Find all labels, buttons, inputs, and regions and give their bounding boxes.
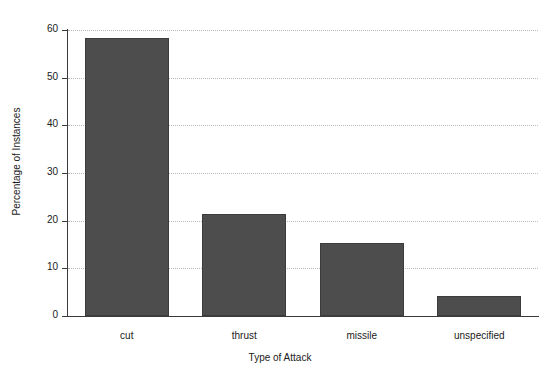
- y-tick-mark: [62, 78, 68, 79]
- y-tick-label: 10: [20, 261, 58, 272]
- y-tick-mark: [62, 173, 68, 174]
- x-axis-title: Type of Attack: [0, 352, 560, 363]
- y-tick-label: 30: [20, 166, 58, 177]
- x-tick-label: missile: [302, 330, 422, 341]
- y-tick-mark: [62, 30, 68, 31]
- bar: [85, 38, 169, 316]
- y-tick-label: 20: [20, 214, 58, 225]
- y-tick-label: 40: [20, 118, 58, 129]
- x-tick-label: cut: [67, 330, 187, 341]
- y-tick-label: 0: [20, 309, 58, 320]
- y-tick-label: 50: [20, 71, 58, 82]
- bar: [202, 214, 286, 316]
- bar: [437, 296, 521, 316]
- y-tick-mark: [62, 268, 68, 269]
- y-tick-mark: [62, 316, 68, 317]
- y-tick-mark: [62, 125, 68, 126]
- y-tick-label: 60: [20, 23, 58, 34]
- bar: [320, 243, 404, 316]
- y-axis-title: Percentage of Instances: [11, 62, 22, 262]
- y-tick-mark: [62, 221, 68, 222]
- x-tick-label: unspecified: [419, 330, 539, 341]
- gridline: [68, 30, 538, 31]
- bar-chart-figure: 0102030405060 cutthrustmissileunspecifie…: [0, 0, 560, 379]
- x-tick-label: thrust: [184, 330, 304, 341]
- x-axis-spine: [67, 316, 539, 317]
